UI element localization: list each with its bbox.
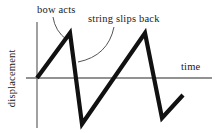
string-slips-back-leader-line bbox=[78, 27, 114, 62]
x-axis-label: time bbox=[181, 62, 200, 73]
sawtooth-displacement-figure: bow acts string slips back time displace… bbox=[0, 0, 216, 133]
annotation-bow-acts: bow acts bbox=[37, 5, 76, 16]
annotation-string-slips-back: string slips back bbox=[88, 14, 160, 25]
y-axis-label: displacement bbox=[7, 41, 18, 115]
